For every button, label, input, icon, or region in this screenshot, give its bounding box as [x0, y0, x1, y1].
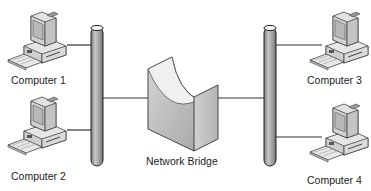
network-bridge-label: Network Bridge — [146, 155, 218, 167]
computer-1-icon — [8, 12, 66, 70]
computer-3-label: Computer 3 — [307, 74, 362, 86]
computer-1-label: Computer 1 — [11, 74, 66, 86]
computer-4-label: Computer 4 — [307, 174, 362, 186]
network-bridge-icon — [148, 57, 218, 151]
right-bus-cable-icon — [264, 25, 276, 166]
computer-4-icon — [310, 104, 368, 162]
left-bus-cable-icon — [91, 25, 103, 166]
computer-2-label: Computer 2 — [11, 170, 66, 182]
computer-2-icon — [8, 97, 66, 155]
network-bridge-diagram: Computer 1 Computer 2 Computer 3 Compute… — [0, 0, 371, 191]
computer-3-icon — [310, 12, 368, 70]
